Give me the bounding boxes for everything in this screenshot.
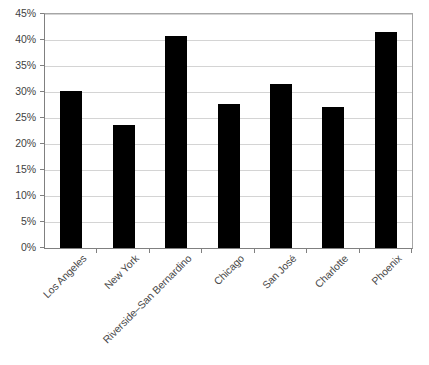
x-tick-label: Riverside–San Bernardino bbox=[100, 252, 193, 345]
y-axis: 0%5%10%15%20%25%30%35%40%45% bbox=[0, 0, 44, 260]
bar bbox=[270, 84, 292, 248]
y-tick-label: 10% bbox=[15, 189, 36, 201]
x-axis-labels: Los AngelesNew YorkRiverside–San Bernard… bbox=[0, 252, 429, 365]
y-tick-label: 45% bbox=[15, 7, 36, 19]
bar-chart: 0%5%10%15%20%25%30%35%40%45% Los Angeles… bbox=[0, 0, 429, 365]
x-tick-label: Los Angeles bbox=[41, 252, 89, 300]
x-tick-label: San José bbox=[260, 252, 299, 291]
y-tick-label: 15% bbox=[15, 163, 36, 175]
bar bbox=[375, 32, 397, 248]
y-tick-label: 5% bbox=[21, 215, 36, 227]
x-tick-label: New York bbox=[101, 252, 140, 291]
y-tick-label: 20% bbox=[15, 137, 36, 149]
bars-layer bbox=[45, 14, 412, 248]
bar bbox=[165, 36, 187, 248]
x-tick-label: Phoenix bbox=[369, 252, 404, 287]
bar bbox=[60, 91, 82, 248]
bar bbox=[113, 125, 135, 248]
bar bbox=[322, 107, 344, 248]
y-tick-label: 25% bbox=[15, 111, 36, 123]
y-tick-label: 35% bbox=[15, 59, 36, 71]
plot-area bbox=[44, 13, 413, 249]
bar bbox=[218, 104, 240, 248]
x-tick-label: Charlotte bbox=[313, 252, 351, 290]
x-tick-label: Chicago bbox=[211, 252, 246, 287]
y-tick-label: 30% bbox=[15, 85, 36, 97]
y-tick-label: 40% bbox=[15, 33, 36, 45]
